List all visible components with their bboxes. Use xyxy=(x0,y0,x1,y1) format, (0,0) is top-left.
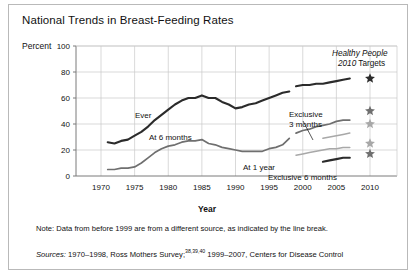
series-label-exclusive-3-months: Exclusive xyxy=(289,110,323,119)
sources-references: 38,39,40 xyxy=(185,248,205,254)
y-tick-label: 60 xyxy=(61,94,70,103)
series-label-at-1-year: At 1 year xyxy=(243,163,275,172)
x-tick-label: 1985 xyxy=(193,183,211,192)
figure-note: Note: Data from before 1999 are from a d… xyxy=(36,224,328,233)
x-tick-label: 2005 xyxy=(327,183,345,192)
series-label-exclusive-3-months: 3 months xyxy=(289,120,322,129)
x-axis-title: Year xyxy=(0,204,414,214)
x-tick-label: 1975 xyxy=(126,183,144,192)
y-tick-label: 40 xyxy=(61,120,70,129)
series-label-at-6-months: At 6 months xyxy=(149,133,192,142)
series-line-ever xyxy=(296,79,350,87)
x-tick-label: 1980 xyxy=(159,183,177,192)
y-tick-label: 20 xyxy=(61,146,70,155)
y-tick-label: 80 xyxy=(61,68,70,77)
x-tick-label: 1995 xyxy=(260,183,278,192)
sources-text-2: 1999–2007, Centers for Disease Control xyxy=(205,250,343,259)
figure-sources: Sources: 1970–1998, Ross Mothers Survey;… xyxy=(36,248,343,259)
sources-prefix: Sources: xyxy=(36,250,66,259)
x-tick-label: 2010 xyxy=(361,183,379,192)
x-tick-label: 2000 xyxy=(294,183,312,192)
series-line-at-1-year xyxy=(296,147,350,155)
target-header-line-1: Healthy People xyxy=(332,49,388,58)
x-tick-label: 1970 xyxy=(92,183,110,192)
y-tick-labels: 020406080100 xyxy=(57,42,76,181)
y-tick-label: 100 xyxy=(57,42,71,51)
series-labels: EverAt 6 monthsAt 1 yearExclusive3 month… xyxy=(135,110,337,182)
x-tick-label: 1990 xyxy=(227,183,245,192)
target-header-line-2: 2010 Targets xyxy=(337,59,385,68)
series-label-ever: Ever xyxy=(135,111,152,120)
x-tick-labels: 197019751980198519901995200020052010 xyxy=(92,183,379,192)
y-tick-label: 0 xyxy=(66,172,71,181)
series-label-exclusive-6-months: Exclusive 6 months xyxy=(268,173,337,182)
target-header: Healthy People2010 Targets xyxy=(332,49,388,68)
sources-text-1: 1970–1998, Ross Mothers Survey; xyxy=(66,250,185,259)
